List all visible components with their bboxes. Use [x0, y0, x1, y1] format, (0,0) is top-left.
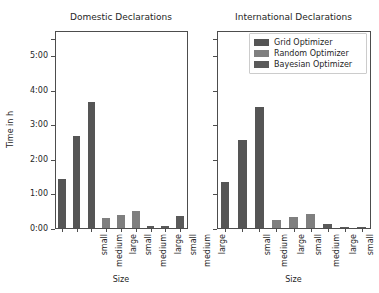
legend: Grid OptimizerRandom OptimizerBayesian O… — [249, 33, 367, 74]
legend-swatch-icon — [254, 61, 269, 68]
panel-title-1: International Declarations — [217, 12, 371, 22]
panel-title-0: Domestic Declarations — [55, 12, 188, 22]
x-tick-label: small — [189, 234, 198, 268]
y-tick-mark-minor — [213, 39, 217, 40]
x-tick-mark — [259, 229, 260, 233]
x-tick-mark — [136, 229, 137, 233]
x-tick-label: small — [144, 234, 153, 268]
x-tick-label: small — [366, 234, 375, 268]
y-tick-label: 2:00 — [10, 155, 48, 164]
y-tick-label: 0:00 — [10, 224, 48, 233]
x-tick-mark — [328, 229, 329, 233]
y-tick-label: 3:00 — [10, 120, 48, 129]
bar — [73, 136, 81, 228]
x-tick-label: medium — [332, 234, 341, 268]
legend-item: Random Optimizer — [254, 48, 362, 59]
x-tick-label: medium — [115, 234, 124, 268]
figure: Domestic Declarations0:001:002:003:004:0… — [0, 0, 379, 293]
x-tick-label: medium — [203, 234, 212, 268]
bar — [117, 215, 125, 229]
legend-label: Bayesian Optimizer — [274, 59, 352, 70]
x-tick-label: small — [100, 234, 109, 268]
x-axis-label: Size — [55, 275, 188, 284]
legend-swatch-icon — [254, 50, 269, 57]
x-tick-mark — [294, 229, 295, 233]
y-tick-mark — [213, 160, 217, 161]
y-tick-label: 4:00 — [10, 86, 48, 95]
y-tick-label: 5:00 — [10, 51, 48, 60]
y-tick-mark — [51, 125, 55, 126]
y-tick-mark-minor — [51, 39, 55, 40]
x-tick-mark — [180, 229, 181, 233]
y-tick-mark — [51, 194, 55, 195]
bar — [58, 179, 66, 229]
x-tick-mark — [242, 229, 243, 233]
x-tick-label: large — [174, 234, 183, 268]
x-tick-mark — [311, 229, 312, 233]
x-tick-mark — [62, 229, 63, 233]
x-tick-mark — [91, 229, 92, 233]
x-tick-label: large — [218, 234, 227, 268]
bar — [88, 102, 96, 228]
x-tick-label: small — [263, 234, 272, 268]
legend-item: Bayesian Optimizer — [254, 59, 362, 70]
x-tick-label: small — [314, 234, 323, 268]
x-tick-label: large — [349, 234, 358, 268]
bar — [289, 217, 298, 228]
x-tick-mark — [165, 229, 166, 233]
x-tick-mark — [77, 229, 78, 233]
bar — [221, 182, 230, 228]
x-tick-label: large — [297, 234, 306, 268]
bar — [176, 216, 184, 228]
y-tick-mark — [51, 91, 55, 92]
y-tick-mark — [213, 229, 217, 230]
bar — [255, 107, 264, 228]
y-tick-mark — [51, 229, 55, 230]
legend-item: Grid Optimizer — [254, 37, 362, 48]
x-tick-mark — [121, 229, 122, 233]
bar — [272, 220, 281, 229]
x-tick-mark — [106, 229, 107, 233]
y-tick-label: 1:00 — [10, 189, 48, 198]
bar — [238, 140, 247, 228]
x-tick-mark — [345, 229, 346, 233]
legend-swatch-icon — [254, 39, 269, 46]
bar — [132, 211, 140, 229]
legend-label: Grid Optimizer — [274, 37, 333, 48]
y-tick-mark — [213, 91, 217, 92]
x-axis-label: Size — [217, 275, 371, 284]
y-tick-mark — [213, 125, 217, 126]
y-tick-mark — [213, 56, 217, 57]
y-axis-label: Time in h — [6, 100, 15, 160]
x-tick-mark — [276, 229, 277, 233]
y-tick-mark — [51, 56, 55, 57]
x-tick-mark — [225, 229, 226, 233]
x-tick-label: medium — [159, 234, 168, 268]
x-tick-label: large — [129, 234, 138, 268]
legend-label: Random Optimizer — [274, 48, 349, 59]
bar — [102, 218, 110, 229]
bar — [306, 214, 315, 229]
y-tick-mark — [51, 160, 55, 161]
y-tick-mark — [213, 194, 217, 195]
x-tick-mark — [151, 229, 152, 233]
x-tick-label: medium — [280, 234, 289, 268]
x-tick-mark — [362, 229, 363, 233]
